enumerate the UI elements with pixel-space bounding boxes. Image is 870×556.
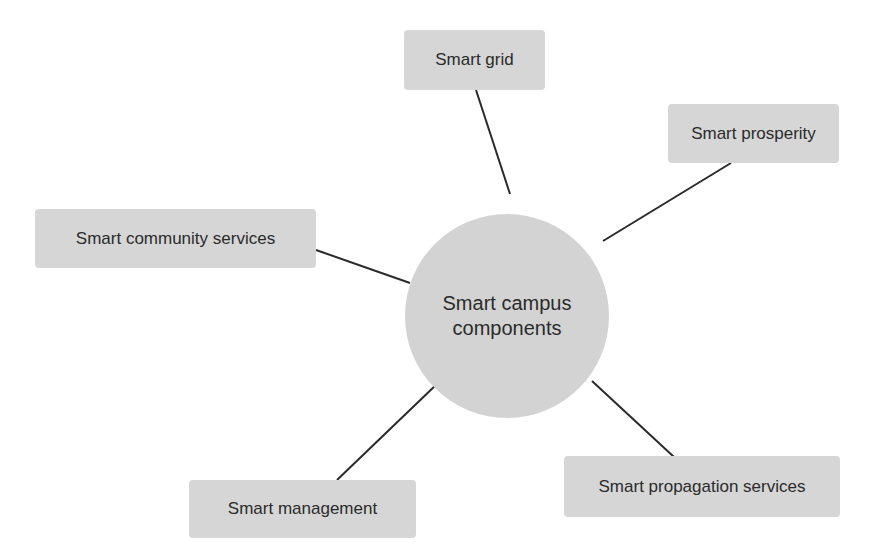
- edge-smart-propagation-services: [592, 381, 674, 457]
- node-label: Smart management: [228, 499, 377, 519]
- node-label: Smart propagation services: [599, 477, 806, 497]
- center-label-line1: Smart campus: [443, 291, 572, 316]
- node-label: Smart grid: [435, 50, 513, 70]
- center-label-line2: components: [453, 316, 562, 341]
- edge-smart-prosperity: [603, 163, 731, 241]
- edge-smart-grid: [476, 90, 510, 194]
- node-label: Smart community services: [76, 229, 275, 249]
- node-smart-prosperity: Smart prosperity: [668, 104, 839, 163]
- edge-smart-management: [337, 383, 438, 480]
- node-smart-management: Smart management: [189, 480, 416, 538]
- node-label: Smart prosperity: [691, 124, 816, 144]
- node-smart-propagation-services: Smart propagation services: [564, 456, 840, 517]
- node-smart-grid: Smart grid: [404, 30, 545, 90]
- center-node: Smart campus components: [405, 214, 609, 418]
- node-smart-community-services: Smart community services: [35, 209, 316, 268]
- edge-smart-community-services: [316, 250, 410, 283]
